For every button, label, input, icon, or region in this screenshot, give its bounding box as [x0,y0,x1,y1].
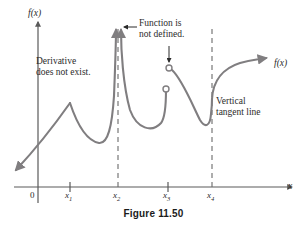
axis-tick-label-x4-sub: 4 [211,195,214,202]
annotation-derivative-line2: does not exist. [36,67,91,78]
curve-right-branch [212,58,266,99]
curve-discontinuity-to-vertical-tangent [172,70,212,125]
axis-tick-label-x3: x3 [163,190,170,202]
annotation-vertical-tangent-line2: tangent line [216,107,261,118]
axis-tick-label-x4: x4 [207,190,214,202]
axis-tick-label-x1-sub: 1 [69,195,72,202]
axis-tick-label-x2: x2 [113,190,120,202]
y-axis-label: f(x) [28,8,41,19]
curve-corner-to-asymptote [70,30,116,143]
axis-tick-label-x2-sub: 2 [117,195,120,202]
x-axis-label: x [288,181,292,192]
annotation-not-defined-line1: Function is [139,18,184,29]
figure-container: f(x) x f(x) Derivative does not exist. F… [0,0,307,233]
annotation-vertical-tangent: Vertical tangent line [216,96,261,118]
curve-asymptote-to-discontinuity [121,30,166,128]
annotation-not-defined: Function is not defined. [139,18,184,40]
annotation-derivative: Derivative does not exist. [36,56,91,78]
annotation-vertical-tangent-line1: Vertical [216,96,261,107]
annotation-not-defined-line2: not defined. [139,29,184,40]
annotation-derivative-line1: Derivative [36,56,91,67]
open-circle-lower [163,86,169,92]
axis-tick-label-x3-sub: 3 [167,195,170,202]
curve-left-branch [16,103,70,170]
axis-tick-label-origin: 0 [30,190,35,200]
axis-tick-label-x1: x1 [65,190,72,202]
figure-caption: Figure 11.50 [0,208,307,219]
curve-label: f(x) [274,58,287,69]
open-circle-upper [166,65,172,71]
